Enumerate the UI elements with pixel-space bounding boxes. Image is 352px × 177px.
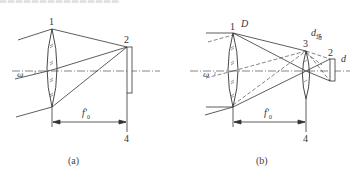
label-aperture-D: D [241, 19, 248, 29]
reticle-plate [127, 47, 132, 93]
label-objective-a: 1 [49, 17, 54, 27]
objective-lens-a [47, 29, 57, 107]
label-focal-length-a: f′0 [82, 108, 90, 120]
label-focal-plane-a: 4 [124, 134, 129, 144]
label-focal-plane-b: 4 [303, 134, 308, 144]
label-detector-diameter: d [341, 54, 346, 64]
label-objective-b: 1 [230, 22, 235, 32]
label-field-angle-a: ω [17, 70, 23, 79]
caption-a: (a) [68, 155, 79, 166]
label-focal-length-b: f′0 [264, 108, 272, 120]
label-field-lens: 3 [303, 39, 308, 49]
caption-b: (b) [256, 155, 268, 166]
label-field-lens-diameter: d场 [311, 28, 322, 40]
detector [330, 59, 335, 81]
label-detector: 2 [328, 48, 333, 58]
label-reticle-a: 2 [124, 35, 129, 45]
field-lens [303, 51, 310, 99]
label-field-angle-b: ω [203, 70, 209, 79]
